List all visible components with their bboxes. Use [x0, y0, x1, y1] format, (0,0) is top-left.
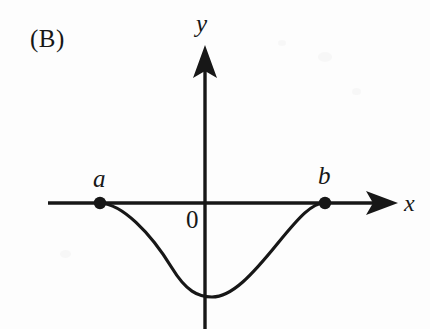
origin-label: 0 [186, 207, 199, 232]
panel-label: (B) [30, 26, 65, 51]
point-b-label: b [318, 163, 331, 188]
function-curve [100, 203, 325, 297]
figure-panel-b: (B) y x a b 0 [0, 0, 430, 329]
y-axis-label: y [196, 11, 207, 36]
point-b-marker [319, 197, 331, 209]
x-axis-label: x [404, 191, 415, 215]
point-a-label: a [93, 166, 106, 191]
point-a-marker [94, 197, 106, 209]
